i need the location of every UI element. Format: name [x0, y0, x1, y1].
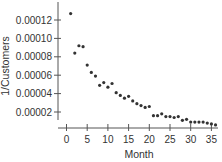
data-point: [177, 115, 180, 118]
x-tick-label: 35: [206, 134, 218, 145]
data-point: [77, 44, 80, 47]
data-point: [81, 45, 84, 48]
data-point: [98, 84, 101, 87]
x-tick-label: 5: [84, 134, 90, 145]
data-point: [214, 123, 217, 126]
data-point: [110, 82, 113, 85]
data-point: [90, 71, 93, 74]
x-tick-label: 30: [185, 134, 197, 145]
data-point: [86, 63, 89, 66]
data-point: [152, 114, 155, 117]
y-tick-label: 0.00002: [16, 107, 53, 118]
data-points: [69, 12, 217, 127]
data-point: [119, 94, 122, 97]
data-point: [106, 86, 109, 89]
data-point: [168, 115, 171, 118]
data-point: [94, 75, 97, 78]
data-point: [193, 121, 196, 124]
x-tick-label: 0: [64, 134, 70, 145]
data-point: [197, 121, 200, 124]
data-point: [102, 81, 105, 84]
data-point: [123, 97, 126, 100]
data-point: [202, 121, 205, 124]
y-tick-label: 0.00012: [16, 15, 53, 26]
y-tick-label: 0.00008: [16, 51, 53, 62]
data-point: [189, 121, 192, 124]
y-tick-label: 0.00006: [16, 70, 53, 81]
data-point: [173, 116, 176, 119]
x-tick-label: 15: [123, 134, 135, 145]
x-tick-label: 25: [164, 134, 176, 145]
data-point: [69, 12, 72, 15]
x-axis-label: Month: [124, 148, 153, 160]
scatter-chart: 0.000020.000040.000060.000080.000100.000…: [0, 0, 222, 162]
data-point: [135, 102, 138, 105]
y-axis-label: 1/Customers: [0, 36, 11, 96]
data-point: [156, 114, 159, 117]
data-point: [115, 91, 118, 94]
data-point: [148, 105, 151, 108]
data-point: [206, 121, 209, 124]
x-tick-label: 10: [102, 134, 114, 145]
y-tick-label: 0.00010: [16, 33, 53, 44]
y-tick-label: 0.00004: [16, 88, 53, 99]
data-point: [210, 122, 213, 125]
x-tick-label: 20: [144, 134, 156, 145]
data-point: [144, 106, 147, 109]
data-point: [73, 52, 76, 55]
data-point: [131, 99, 134, 102]
data-point: [127, 95, 130, 98]
data-point: [185, 118, 188, 121]
data-point: [139, 104, 142, 107]
data-point: [160, 112, 163, 115]
data-point: [181, 119, 184, 122]
y-axis: 0.000020.000040.000060.000080.000100.000…: [16, 2, 61, 120]
x-axis: 05101520253035: [58, 124, 218, 145]
data-point: [164, 115, 167, 118]
